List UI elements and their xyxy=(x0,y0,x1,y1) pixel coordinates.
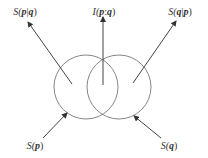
label-entropy-p: S(p) xyxy=(27,141,44,151)
label-suffix: ) xyxy=(40,140,43,151)
venn-diagram-canvas xyxy=(0,0,208,158)
label-suffix: ) xyxy=(112,6,115,17)
circle-q xyxy=(87,55,151,119)
label-prefix: I( xyxy=(93,6,100,17)
label-suffix: ) xyxy=(34,6,37,17)
arrow-conditional-entropy-p-given-q xyxy=(28,22,72,84)
label-entropy-q: S(q) xyxy=(161,141,178,151)
label-mutual-information: I(p:q) xyxy=(93,7,116,17)
circle-p xyxy=(54,55,118,119)
arrow-conditional-entropy-q-given-p xyxy=(133,21,176,83)
label-suffix: ) xyxy=(174,140,177,151)
label-conditional-entropy-p-given-q: S(p|q) xyxy=(13,7,37,17)
arrow-entropy-p xyxy=(43,113,67,138)
label-conditional-entropy-q-given-p: S(q|p) xyxy=(168,7,192,17)
arrow-entropy-q xyxy=(134,116,161,138)
label-suffix: ) xyxy=(189,6,192,17)
